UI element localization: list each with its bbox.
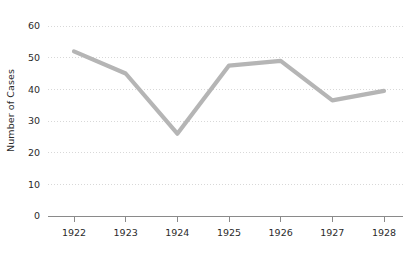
plot-area: 0102030405060 19221923192419251926192719…	[0, 0, 419, 257]
y-axis-tick-label: 40	[28, 84, 40, 95]
x-axis-tick-label: 1925	[217, 227, 241, 238]
line-chart: Number of Cases 0102030405060 1922192319…	[0, 0, 419, 257]
y-axis-tick-label: 60	[28, 20, 40, 31]
x-axis-tick-label: 1924	[165, 227, 189, 238]
y-axis-tick-label: 50	[28, 52, 40, 63]
y-axis-tick-label: 30	[28, 115, 40, 126]
y-axis-tick-label: 10	[28, 179, 40, 190]
x-axis	[48, 216, 403, 222]
y-axis-tick-label: 0	[34, 210, 40, 221]
x-axis-tick-label: 1926	[269, 227, 293, 238]
x-axis-tick-label: 1922	[62, 227, 86, 238]
x-axis-tick-label: 1923	[114, 227, 138, 238]
y-axis-tick-label: 20	[28, 147, 40, 158]
y-axis-tick-labels: 0102030405060	[28, 20, 40, 221]
x-axis-tick-label: 1927	[320, 227, 344, 238]
x-axis-tick-label: 1928	[372, 227, 396, 238]
x-axis-tick-labels: 1922192319241925192619271928	[62, 227, 396, 238]
gridlines	[48, 26, 403, 184]
